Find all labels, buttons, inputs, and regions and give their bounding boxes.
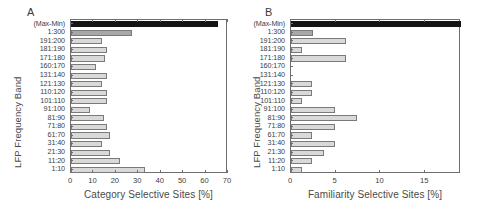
x-tick-mark-top — [227, 19, 228, 22]
x-tick-mark — [205, 170, 206, 173]
x-tick-mark-top — [92, 19, 93, 22]
y-tick-label: 131:140 — [40, 71, 65, 78]
y-tick-label: 121:130 — [260, 80, 285, 87]
y-tick-label: 160:170 — [40, 62, 65, 69]
bar-row — [291, 158, 459, 164]
bar-21-30 — [71, 150, 110, 156]
bar-110-120 — [291, 90, 312, 96]
y-tick-label: 181:190 — [260, 45, 285, 52]
bar-row — [291, 115, 459, 121]
bar-91-100 — [71, 107, 90, 113]
x-tick-mark-top — [70, 19, 71, 22]
y-tick-label: 171:180 — [40, 54, 65, 61]
bar-101-110 — [71, 98, 107, 104]
y-tick-mark — [290, 66, 293, 67]
y-tick-label: 101:110 — [40, 97, 65, 104]
bar-row — [71, 150, 226, 156]
bar-row — [291, 132, 459, 138]
y-tick-mark — [70, 117, 73, 118]
x-tick-label: 70 — [223, 176, 231, 185]
bar-row — [71, 38, 226, 44]
bar-61-70 — [291, 132, 312, 138]
panel-b: B LFP Frequency Band (Max-Min)1:300191:2… — [240, 0, 479, 210]
y-tick-mark — [70, 66, 73, 67]
bar-max-min — [291, 21, 461, 27]
bar-row — [291, 55, 459, 61]
bar-row — [71, 115, 226, 121]
x-tick-label: 5 — [333, 176, 337, 185]
bar-row — [291, 124, 459, 130]
bar-row — [291, 21, 459, 27]
y-tick-label: 11:20 — [268, 157, 285, 164]
bar-row — [71, 107, 226, 113]
bar-121-130 — [291, 81, 312, 87]
panel-a-plot-area — [70, 19, 227, 173]
bar-191-200 — [71, 38, 102, 44]
y-tick-mark — [70, 40, 73, 41]
bar-row — [291, 81, 459, 87]
x-tick-mark-top — [290, 19, 291, 22]
y-tick-label: 91:100 — [264, 105, 285, 112]
bar-row — [291, 98, 459, 104]
bar-121-130 — [71, 81, 102, 87]
bar-row — [291, 167, 459, 173]
panel-b-plot-area — [290, 19, 460, 173]
y-tick-mark — [290, 126, 293, 127]
bar-row — [71, 141, 226, 147]
y-tick-mark — [70, 143, 73, 144]
y-tick-label: (Max-Min) — [34, 20, 65, 27]
y-tick-mark — [70, 32, 73, 33]
x-tick-mark-top — [115, 19, 116, 22]
y-tick-mark — [290, 100, 293, 101]
x-tick-label: 30 — [133, 176, 141, 185]
bar-row — [71, 90, 226, 96]
y-tick-mark — [290, 109, 293, 110]
y-tick-label: (Max-Min) — [254, 20, 285, 27]
y-tick-mark — [290, 152, 293, 153]
bar-71-80 — [291, 124, 335, 130]
y-tick-label: 91:100 — [44, 105, 65, 112]
x-tick-mark-top — [160, 19, 161, 22]
x-tick-label: 10 — [88, 176, 96, 185]
y-tick-mark — [290, 75, 293, 76]
y-tick-label: 160:170 — [260, 62, 285, 69]
y-tick-label: 1:300 — [48, 28, 66, 35]
y-tick-mark — [70, 135, 73, 136]
bar-191-200 — [291, 38, 346, 44]
x-tick-label: 50 — [178, 176, 186, 185]
bar-row — [71, 158, 226, 164]
bar-31-40 — [291, 141, 335, 147]
y-tick-label: 131:140 — [260, 71, 285, 78]
y-tick-mark — [290, 135, 293, 136]
y-tick-label: 110:120 — [40, 88, 65, 95]
bar-1-300 — [71, 30, 132, 36]
bar-91-100 — [291, 107, 335, 113]
bar-row — [71, 64, 226, 70]
bar-110-120 — [71, 90, 107, 96]
y-tick-mark — [70, 92, 73, 93]
x-tick-label: 60 — [200, 176, 208, 185]
x-tick-label: 0 — [68, 176, 72, 185]
bar-row — [71, 47, 226, 53]
y-tick-label: 1:10 — [51, 165, 65, 172]
bar-row — [71, 30, 226, 36]
y-tick-mark — [70, 23, 73, 24]
x-tick-mark-top — [424, 19, 425, 22]
y-tick-label: 121:130 — [40, 80, 65, 87]
y-tick-label: 31:40 — [268, 139, 286, 146]
x-tick-mark-top — [335, 19, 336, 22]
y-tick-mark — [70, 100, 73, 101]
x-tick-mark — [182, 170, 183, 173]
y-tick-mark — [70, 126, 73, 127]
panel-a: A LFP Frequency Band (Max-Min)1:300191:2… — [0, 0, 239, 210]
x-tick-mark-top — [379, 19, 380, 22]
y-tick-label: 110:120 — [260, 88, 285, 95]
y-tick-label: 71:80 — [268, 122, 286, 129]
x-tick-mark — [424, 170, 425, 173]
bar-11-20 — [291, 158, 312, 164]
bar-row — [71, 55, 226, 61]
bar-row — [71, 73, 226, 79]
bar-row — [71, 98, 226, 104]
y-tick-mark — [70, 169, 73, 170]
panel-a-x-axis-title: Category Selective Sites [%] — [70, 189, 227, 200]
